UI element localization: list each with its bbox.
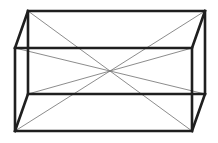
cuboid-diagram xyxy=(0,0,218,143)
figure-canvas xyxy=(0,0,218,143)
